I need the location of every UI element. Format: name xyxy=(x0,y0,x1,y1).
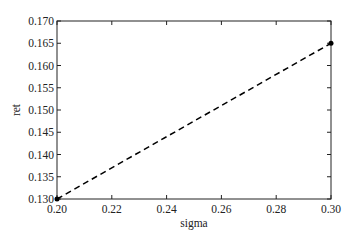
x-tick-label: 0.20 xyxy=(47,203,67,215)
y-tick-label: 0.140 xyxy=(28,149,54,161)
x-tick-label: 0.28 xyxy=(266,203,286,215)
x-tick-label: 0.22 xyxy=(102,203,122,215)
x-axis-label: sigma xyxy=(180,217,207,230)
x-tick-label: 0.30 xyxy=(321,203,341,215)
y-tick-label: 0.145 xyxy=(28,126,54,138)
x-tick-label: 0.24 xyxy=(157,203,177,215)
x-tick-label: 0.26 xyxy=(211,203,231,215)
data-point-marker xyxy=(329,41,334,46)
y-tick-label: 0.155 xyxy=(28,82,54,94)
y-tick-label: 0.170 xyxy=(28,15,54,27)
y-tick-label: 0.160 xyxy=(28,60,54,72)
y-axis-label: ret xyxy=(10,103,22,116)
y-tick-label: 0.135 xyxy=(28,171,54,183)
y-tick-label: 0.150 xyxy=(28,104,54,116)
y-tick-label: 0.165 xyxy=(28,37,54,49)
chart: 0.1300.1350.1400.1450.1500.1550.1600.165… xyxy=(0,0,353,243)
plot-area xyxy=(57,21,331,199)
data-point-marker xyxy=(55,197,60,202)
